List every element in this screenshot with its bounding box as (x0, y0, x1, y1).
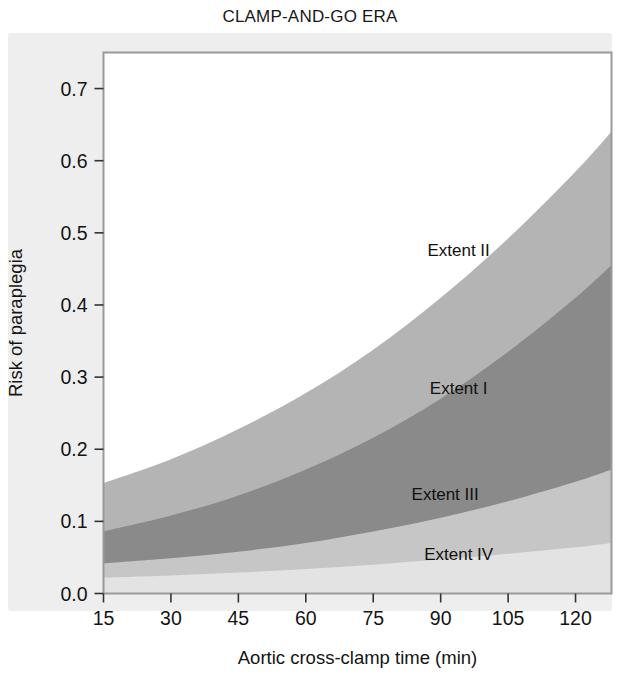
band-label-extent-iv: Extent IV (424, 545, 494, 564)
x-axis-title: Aortic cross-clamp time (min) (238, 647, 478, 668)
y-tick-label: 0.4 (60, 294, 87, 316)
band-label-extent-i: Extent I (430, 379, 488, 398)
band-label-extent-iii: Extent III (412, 485, 479, 504)
y-tick-label: 0.7 (60, 78, 87, 100)
x-tick-label: 30 (160, 607, 182, 629)
chart-figure: CLAMP-AND-GO ERA Extent IVExtent IIIExte… (0, 0, 620, 676)
band-label-extent-ii: Extent II (427, 241, 489, 260)
y-tick-label: 0.3 (60, 366, 87, 388)
y-tick-label: 0.0 (60, 583, 87, 605)
x-tick-label: 75 (362, 607, 384, 629)
y-tick-label: 0.1 (60, 510, 87, 532)
x-tick-label: 60 (295, 607, 317, 629)
x-tick-label: 90 (430, 607, 452, 629)
y-tick-label: 0.5 (60, 222, 87, 244)
x-tick-label: 45 (228, 607, 250, 629)
y-tick-label: 0.2 (60, 438, 87, 460)
x-tick-label: 15 (93, 607, 115, 629)
chart-svg: Extent IVExtent IIIExtent IExtent II1530… (0, 0, 620, 676)
y-tick-label: 0.6 (60, 150, 87, 172)
x-tick-label: 105 (492, 607, 525, 629)
x-tick-label: 120 (559, 607, 592, 629)
y-axis-title: Risk of paraplegia (5, 248, 26, 397)
